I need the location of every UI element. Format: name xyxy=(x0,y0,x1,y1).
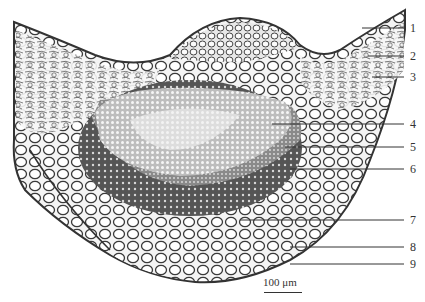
label-4: 4 xyxy=(410,118,416,130)
micrograph-figure: 1 2 3 4 5 6 7 8 9 100 μm xyxy=(0,0,425,302)
label-1: 1 xyxy=(410,22,416,34)
label-3: 3 xyxy=(410,71,416,83)
label-8: 8 xyxy=(410,241,416,253)
label-7: 7 xyxy=(410,214,416,226)
label-9: 9 xyxy=(410,258,416,270)
leaf-section-drawing xyxy=(0,0,425,302)
label-2: 2 xyxy=(410,50,416,62)
scale-bar-label: 100 μm xyxy=(263,276,297,288)
scale-bar xyxy=(264,292,302,293)
label-5: 5 xyxy=(410,141,416,153)
label-6: 6 xyxy=(410,163,416,175)
